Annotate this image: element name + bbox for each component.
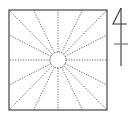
radial-line xyxy=(9,10,52,54)
radial-line xyxy=(65,35,107,56)
radial-line xyxy=(9,66,52,110)
radial-line xyxy=(9,64,51,85)
radial-line xyxy=(34,10,55,53)
four-glyph-icon xyxy=(113,8,127,24)
radial-line xyxy=(34,67,55,110)
radial-line xyxy=(62,10,83,53)
radial-line xyxy=(64,66,107,110)
number-symbol xyxy=(113,8,128,66)
radial-diagram xyxy=(0,0,134,117)
radial-line xyxy=(65,64,107,85)
radial-line xyxy=(62,67,83,110)
center-circle xyxy=(50,52,66,68)
radial-line xyxy=(9,35,51,56)
radial-line xyxy=(64,10,107,54)
